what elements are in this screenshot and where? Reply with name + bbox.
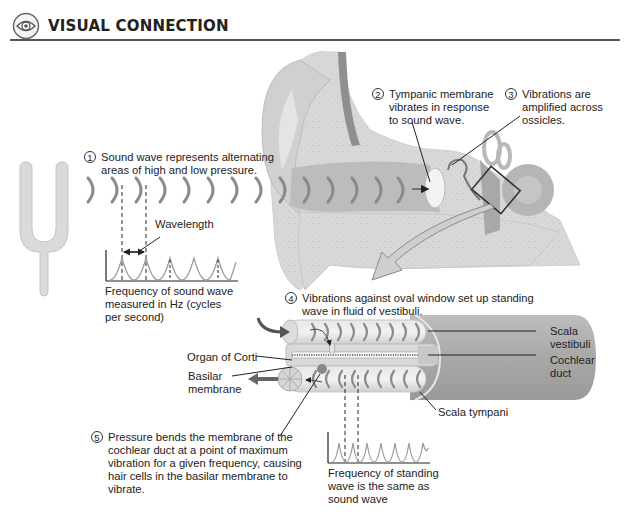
step-3-line-1: Vibrations are [522,88,603,101]
step-3-line-2: amplified across [522,101,603,114]
step-number-4: 4 [285,292,297,304]
step-4-caption: 4 Vibrations against oval window set up … [285,292,534,318]
step-5-line-5: vibrate. [108,483,302,496]
frequency-standing-line-3: sound wave [328,493,439,506]
frequency-standing-line-2: wave is the same as [328,480,439,493]
sound-wave-arcs [88,178,403,202]
step-5-line-2: cochlear duct at a point of maximum [108,444,302,457]
step-2-line-3: to sound wave. [389,114,493,127]
basilar-membrane-label: Basilar membrane [188,370,241,396]
step-number-5: 5 [91,431,103,443]
step-1-line-2: areas of high and low pressure. [101,164,274,177]
frequency-standing-line-1: Frequency of standing [328,467,439,480]
cochlear-duct-line-2: duct [550,367,595,380]
basilar-line-2: membrane [188,383,241,396]
frequency-sound-line-1: Frequency of sound wave [105,285,233,298]
scala-vestibuli-label: Scala vestibuli [550,325,590,351]
step-3-caption: 3 Vibrations are amplified across ossicl… [505,88,603,127]
frequency-sound-line-2: measured in Hz (cycles [105,298,233,311]
step-3-line-3: ossicles. [522,114,603,127]
basilar-line-1: Basilar [188,370,241,383]
step-5-line-3: vibration for a given frequency, causing [108,457,302,470]
wavelength-label: Wavelength [155,218,214,231]
step-2-line-2: vibrates in response [389,101,493,114]
cochlear-duct-label: Cochlear duct [550,354,595,380]
wavelength-marker [122,185,160,280]
step-5-line-4: hair cells in the basilar membrane to [108,470,302,483]
frequency-standing-label: Frequency of standing wave is the same a… [328,467,439,506]
step-2-line-1: Tympanic membrane [389,88,493,101]
scala-vestibuli-line-1: Scala [550,325,590,338]
step-1-line-1: Sound wave represents alternating [101,151,274,164]
sound-wave-plot [106,250,238,281]
organ-of-corti-label: Organ of Corti [187,351,257,364]
step-number-2: 2 [372,88,384,100]
standing-wave-plot [328,432,430,463]
step-5-line-1: Pressure bends the membrane of the [108,431,302,444]
step-2-caption: 2 Tympanic membrane vibrates in response… [372,88,493,127]
scala-tympani-label: Scala tympani [438,406,508,419]
step-1-caption: 1 Sound wave represents alternating area… [84,151,274,177]
step-4-line-1: Vibrations against oval window set up st… [302,292,534,305]
frequency-sound-label: Frequency of sound wave measured in Hz (… [105,285,233,324]
step-number-1: 1 [84,151,96,163]
frequency-sound-line-3: per second) [105,311,233,324]
step-4-line-2: wave in fluid of vestibuli. [302,305,534,318]
step-5-caption: 5 Pressure bends the membrane of the coc… [91,431,302,496]
tuning-fork [20,162,68,296]
scala-vestibuli-line-2: vestibuli [550,338,590,351]
cochlear-duct-line-1: Cochlear [550,354,595,367]
step-number-3: 3 [505,88,517,100]
